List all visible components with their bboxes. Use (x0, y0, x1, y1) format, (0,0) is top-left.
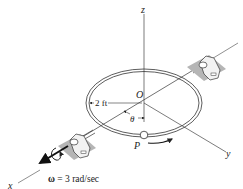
y-axis-label: y (226, 149, 230, 159)
p-motion-arrow (148, 139, 172, 143)
angular-velocity-label: ω = 3 rad/sec (48, 175, 99, 185)
bead-p (140, 131, 148, 139)
origin-label: O (136, 90, 143, 100)
bearing-support-right (187, 55, 226, 81)
point-p-label: P (134, 141, 140, 151)
radius-label: 2 ft (94, 99, 108, 108)
z-axis-label: z (141, 5, 145, 15)
omega-symbol: ω (48, 174, 55, 184)
x-axis-label: x (8, 181, 12, 189)
bearing-support-left (58, 134, 96, 160)
diagram-canvas (0, 0, 243, 189)
theta-label: θ (130, 115, 134, 124)
dynamics-diagram: z O 2 ft θ P x y ω = 3 rad/sec (0, 0, 243, 189)
omega-value: = 3 rad/sec (55, 174, 99, 184)
